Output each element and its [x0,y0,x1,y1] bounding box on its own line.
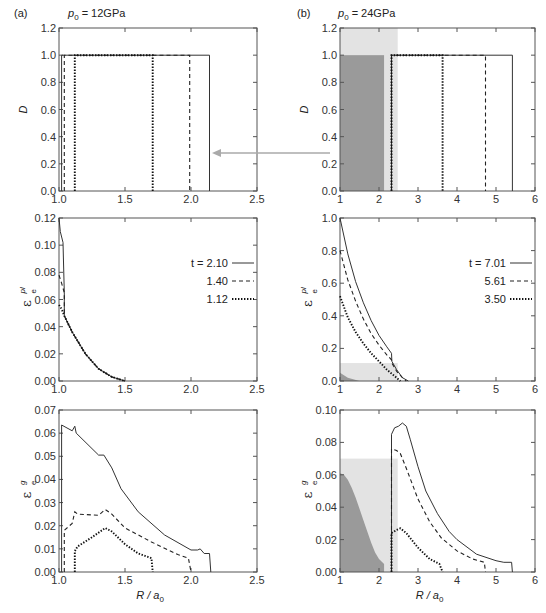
legend-label: 5.61 [485,275,506,287]
svg-text:ε: ε [300,491,315,498]
y-tick-label: 0.2 [322,158,337,170]
chart-panel-b-mid: 1234560.00.20.40.60.81.0εeplt = 7.015.61… [299,212,538,395]
x-tick-label: 1.5 [117,383,132,395]
x-tick-label: 5 [493,574,499,586]
svg-text:e: e [310,480,319,485]
series-dashed [64,55,189,191]
legend-label: 3.50 [485,293,506,305]
y-tick-label: 0.2 [41,158,56,170]
y-tick-label: 1.2 [322,22,337,34]
x-tick-label: 2 [376,574,382,586]
x-tick-label: 6 [532,574,538,586]
series-solid [392,55,513,191]
y-tick-label: 0.06 [316,469,337,481]
x-axis-label: R / a0 [416,589,444,604]
series-solid [62,55,210,191]
axes-frame [59,410,257,572]
svg-text:g: g [18,480,27,485]
y-axis-label: εeg [299,480,319,498]
svg-text:e: e [310,289,319,294]
series-dashed [59,275,125,381]
series-dashed [64,510,191,573]
x-tick-label: 2 [376,193,382,205]
y-tick-label: 0.06 [35,427,56,439]
x-tick-label: 1 [337,193,343,205]
y-tick-label: 1.2 [41,22,56,34]
svg-text:pl: pl [299,287,308,294]
series-dotted [59,305,125,381]
series-dashed [340,251,406,381]
y-tick-label: 0.08 [316,436,337,448]
x-tick-label: 5 [493,193,499,205]
y-tick-label: 1.0 [322,212,337,224]
shaded-region [340,55,384,191]
x-tick-label: 4 [454,383,460,395]
x-tick-label: 6 [532,193,538,205]
y-axis-label: D [17,105,29,113]
series-solid [59,218,125,381]
x-tick-label: 2.5 [249,383,264,395]
y-tick-label: 0.8 [322,76,337,88]
y-tick-label: 0.12 [35,212,56,224]
y-tick-label: 0.02 [316,534,337,546]
y-tick-label: 0.4 [322,131,337,143]
series-solid [392,423,513,572]
y-tick-label: 0.2 [322,342,337,354]
x-tick-label: 5 [493,383,499,395]
y-tick-label: 0.10 [316,404,337,416]
legend-label: t = 7.01 [469,257,506,269]
x-tick-label: 1 [337,383,343,395]
y-tick-label: 0.8 [41,76,56,88]
x-tick-label: 2.0 [183,193,198,205]
y-tick-label: 1.0 [322,49,337,61]
series-dotted [392,55,443,191]
x-tick-label: 2 [376,383,382,395]
x-tick-label: 4 [454,574,460,586]
series-solid [62,425,211,572]
x-tick-label: 6 [532,383,538,395]
axes-frame [59,28,257,191]
y-tick-label: 0.06 [35,294,56,306]
y-tick-label: 0.03 [35,497,56,509]
x-tick-label: 3 [415,193,421,205]
x-tick-label: 2.5 [249,574,264,586]
x-tick-label: 1.5 [117,574,132,586]
y-tick-label: 0.6 [322,277,337,289]
y-tick-label: 0.8 [322,245,337,257]
arrow-icon [212,149,330,157]
y-axis-label: εepl [299,287,319,307]
y-tick-label: 0.0 [322,375,337,387]
series-dotted [392,528,443,572]
svg-text:ε: ε [19,491,34,498]
y-tick-label: 0.00 [316,566,337,578]
legend-label: t = 2.10 [191,257,228,269]
x-tick-label: 4 [454,193,460,205]
series-dotted [75,528,153,572]
y-tick-label: 0.01 [35,543,56,555]
x-axis-label: R / a0 [136,589,164,604]
y-axis-label: D [298,105,310,113]
chart-panel-a-top: 1.01.52.02.50.00.20.40.60.81.01.2D [17,22,265,205]
x-tick-label: 1 [337,574,343,586]
x-tick-label: 3 [415,383,421,395]
y-tick-label: 0.10 [35,239,56,251]
x-tick-label: 1.5 [117,193,132,205]
y-tick-label: 0.00 [35,375,56,387]
y-tick-label: 0.05 [35,450,56,462]
x-tick-label: 3 [415,574,421,586]
y-tick-label: 0.07 [35,404,56,416]
y-tick-label: 0.00 [35,566,56,578]
y-tick-label: 0.6 [322,104,337,116]
x-tick-label: 2.0 [183,574,198,586]
legend-label: 1.12 [207,293,228,305]
svg-text:g: g [299,480,308,485]
chart-panel-a-mid: 1.01.52.02.50.000.020.040.060.080.100.12… [18,212,265,395]
y-tick-label: 0.02 [35,520,56,532]
x-tick-label: 2.0 [183,383,198,395]
y-tick-label: 0.0 [322,185,337,197]
y-tick-label: 0.4 [322,310,337,322]
svg-text:ε: ε [19,300,34,307]
svg-text:e: e [29,480,38,485]
svg-text:ε: ε [300,300,315,307]
y-tick-label: 0.4 [41,131,56,143]
